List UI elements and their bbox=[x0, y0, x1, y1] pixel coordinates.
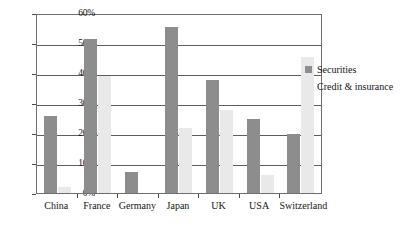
y-axis-tick-mark bbox=[32, 134, 36, 135]
x-axis-tick-mark bbox=[77, 194, 78, 198]
bar-group bbox=[78, 15, 119, 193]
chart-legend: SecuritiesCredit & insurance bbox=[305, 62, 415, 96]
credit-insurance-swatch bbox=[305, 83, 312, 90]
legend-item-label: Securities bbox=[317, 64, 356, 75]
x-axis-tick-label: Germany bbox=[117, 200, 158, 212]
x-axis-tick-mark bbox=[239, 194, 240, 198]
x-axis-tick-label: France bbox=[77, 200, 118, 212]
y-axis-tick-mark bbox=[32, 104, 36, 105]
bars-layer bbox=[37, 15, 321, 193]
y-axis-tick-mark bbox=[32, 194, 36, 195]
bar-group bbox=[118, 15, 159, 193]
y-axis-tick-mark bbox=[32, 74, 36, 75]
y-axis-tick-mark bbox=[32, 44, 36, 45]
bar-credit-insurance bbox=[179, 128, 192, 193]
bar-credit-insurance bbox=[220, 110, 233, 193]
y-axis-tick-mark bbox=[32, 164, 36, 165]
legend-item: Securities bbox=[305, 62, 415, 76]
x-axis-tick-mark bbox=[279, 194, 280, 198]
x-axis-tick-mark bbox=[158, 194, 159, 198]
bar-securities bbox=[84, 39, 97, 193]
bar-securities bbox=[44, 116, 57, 193]
x-axis-tick-label: USA bbox=[239, 200, 280, 212]
x-axis-tick-label: China bbox=[36, 200, 77, 212]
x-axis-tick-mark bbox=[117, 194, 118, 198]
x-axis-tick-mark bbox=[198, 194, 199, 198]
bar-chart: 0%10%20%30%40%50%60% ChinaFranceGermanyJ… bbox=[0, 0, 417, 232]
bar-group bbox=[240, 15, 281, 193]
bar-credit-insurance bbox=[98, 76, 111, 193]
bar-securities bbox=[247, 119, 260, 193]
x-axis-tick-label: UK bbox=[198, 200, 239, 212]
bar-securities bbox=[165, 27, 178, 193]
legend-item-label: Credit & insurance bbox=[317, 81, 393, 92]
bar-securities bbox=[206, 80, 219, 193]
securities-swatch bbox=[305, 66, 312, 73]
x-axis-tick-label: Japan bbox=[158, 200, 199, 212]
bar-group bbox=[199, 15, 240, 193]
y-axis-tick-mark bbox=[32, 14, 36, 15]
bar-securities bbox=[287, 134, 300, 193]
bar-group bbox=[280, 15, 321, 193]
legend-item: Credit & insurance bbox=[305, 79, 415, 93]
bar-credit-insurance bbox=[261, 175, 274, 193]
x-axis-tick-label: Switzerland bbox=[279, 200, 320, 212]
bar-group bbox=[37, 15, 78, 193]
bar-group bbox=[159, 15, 200, 193]
bar-securities bbox=[125, 172, 138, 193]
